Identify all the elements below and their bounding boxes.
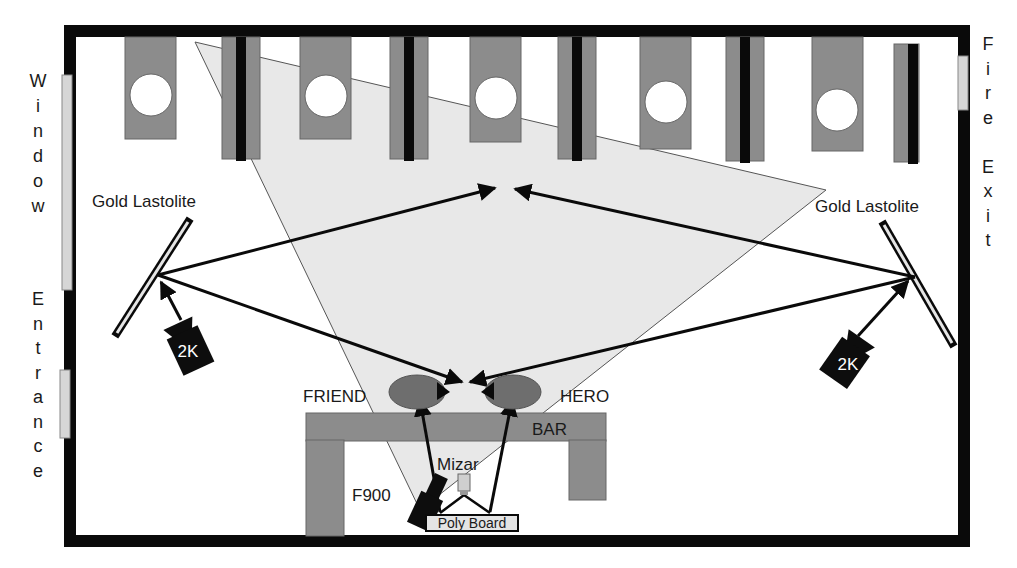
- entrance-label-letter: r: [35, 363, 41, 383]
- entrance-label-letter: c: [34, 436, 43, 456]
- fire-exit-label-letter: r: [985, 83, 991, 103]
- entrance-label: Entrance: [32, 289, 44, 481]
- reflector-left: [117, 222, 188, 333]
- mizar-label: Mizar: [437, 455, 479, 474]
- entrance-door: [60, 370, 70, 438]
- ceiling-unit: [812, 37, 863, 151]
- pillar: [558, 37, 596, 161]
- light-2k-left-label: 2K: [178, 342, 199, 361]
- fire-exit-label-letter: i: [986, 59, 990, 79]
- fire-exit-label-letter: t: [985, 230, 990, 250]
- reflector-right-label: Gold Lastolite: [815, 197, 919, 216]
- fire-exit-label: FireExit: [982, 34, 994, 250]
- fire-exit-door: [958, 56, 968, 110]
- ceiling-unit: [640, 37, 691, 149]
- mizar-spread: [440, 495, 490, 513]
- bar-label: BAR: [532, 420, 567, 439]
- floor-plan-diagram: 2K 2K Poly Board Gold Lastolite Gold Las…: [0, 0, 1017, 568]
- fire-exit-label-letter: i: [986, 206, 990, 226]
- window-label-letter: W: [30, 71, 47, 91]
- window-label-letter: o: [33, 171, 43, 191]
- actor-hero-label: HERO: [560, 387, 609, 406]
- pillar: [390, 37, 428, 161]
- fire-exit-label-letter: e: [983, 108, 993, 128]
- light-2k-right-label: 2K: [838, 355, 859, 374]
- fire-exit-label-letter: x: [984, 181, 993, 201]
- entrance-label-letter: n: [33, 314, 43, 334]
- ray: [161, 282, 181, 320]
- light-2k-left: 2K: [162, 316, 214, 376]
- window-pane: [62, 75, 72, 290]
- pillar: [726, 37, 764, 163]
- entrance-label-letter: t: [35, 338, 40, 358]
- entrance-label-letter: n: [33, 412, 43, 432]
- reflector-left-label: Gold Lastolite: [92, 192, 196, 211]
- actor-friend-label: FRIEND: [303, 387, 366, 406]
- pillar: [222, 37, 260, 161]
- fire-exit-label-letter: F: [983, 34, 994, 54]
- reflector-right: [884, 225, 952, 343]
- window-label-letter: n: [33, 121, 43, 141]
- ceiling-unit: [300, 37, 351, 139]
- f900-label: F900: [352, 486, 391, 505]
- poly-board-label: Poly Board: [438, 515, 506, 531]
- window-label-letter: w: [31, 196, 46, 216]
- entrance-label-letter: e: [33, 461, 43, 481]
- window-label-letter: d: [33, 146, 43, 166]
- window-label-letter: i: [36, 96, 40, 116]
- light-2k-right: 2K: [819, 329, 877, 390]
- ceiling-unit: [470, 37, 521, 142]
- pillar: [894, 44, 919, 164]
- mizar-light: [458, 474, 470, 495]
- ceiling-unit: [125, 37, 176, 139]
- window-label: Window: [30, 71, 47, 216]
- poly-board: Poly Board: [426, 515, 518, 531]
- entrance-label-letter: E: [32, 289, 44, 309]
- entrance-label-letter: a: [33, 387, 44, 407]
- fire-exit-label-letter: E: [982, 157, 994, 177]
